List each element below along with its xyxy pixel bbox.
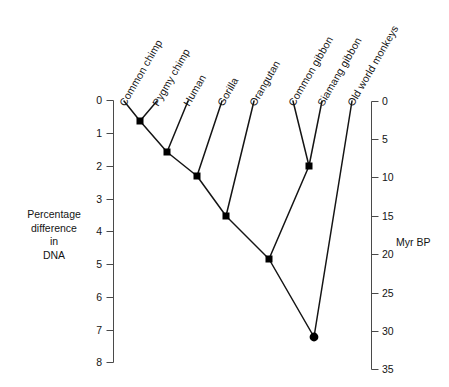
branch-pan-to-gorilla-node	[167, 152, 197, 176]
left-axis-title: Percentage difference in DNA	[14, 208, 94, 262]
node-chimp-split	[137, 118, 144, 125]
right-axis-title: Myr BP	[396, 236, 449, 248]
branch-orang-node-to-great-ape	[226, 216, 269, 259]
left-tick-label-2: 2	[84, 160, 102, 172]
left-axis-title-line-3: in	[14, 235, 94, 249]
branch-human	[167, 101, 188, 152]
right-tick-label-35: 35	[382, 363, 394, 375]
branch-gorilla	[197, 101, 222, 176]
tree-branches	[124, 101, 352, 337]
branch-great-ape-to-root	[269, 259, 314, 337]
right-tick-label-20: 20	[382, 248, 394, 260]
node-great-ape-split	[266, 256, 273, 263]
left-tick-label-3: 3	[84, 193, 102, 205]
left-tick-label-1: 1	[84, 127, 102, 139]
right-tick-label-30: 30	[382, 325, 394, 337]
node-african-ape-split	[223, 213, 230, 220]
right-tick-label-0: 0	[382, 95, 388, 107]
branch-gibbon-split-to-great-ape	[269, 166, 309, 259]
right-tick-label-15: 15	[382, 210, 394, 222]
left-axis-title-line-1: Percentage	[14, 208, 94, 222]
left-axis-title-line-2: difference	[14, 222, 94, 236]
branch-siamang-gibbon	[309, 101, 322, 166]
branch-old-world-monkeys	[314, 101, 352, 337]
node-human-chimp-gorilla-split	[194, 173, 201, 180]
left-tick-label-7: 7	[84, 324, 102, 336]
right-tick-label-5: 5	[382, 133, 388, 145]
node-root-catarrhine-split	[310, 333, 319, 342]
left-axis-title-line-4: DNA	[14, 249, 94, 263]
node-pan-split	[164, 149, 171, 156]
left-tick-label-8: 8	[84, 356, 102, 368]
branch-gorilla-node-to-orang-node	[197, 176, 226, 216]
left-tick-label-6: 6	[84, 291, 102, 303]
tree-nodes	[137, 118, 319, 342]
branch-orangutan	[226, 101, 254, 216]
right-tick-label-25: 25	[382, 287, 394, 299]
branch-chimp-split-to-pan	[140, 121, 167, 152]
phylogenetic-tree-figure: Common chimp Pygmy chimp Human Gorilla O…	[0, 0, 449, 387]
node-gibbon-split	[306, 163, 313, 170]
branch-common-gibbon	[293, 101, 309, 166]
right-tick-label-10: 10	[382, 171, 394, 183]
left-axis	[107, 101, 114, 363]
right-axis	[372, 102, 379, 370]
left-tick-label-0: 0	[84, 94, 102, 106]
